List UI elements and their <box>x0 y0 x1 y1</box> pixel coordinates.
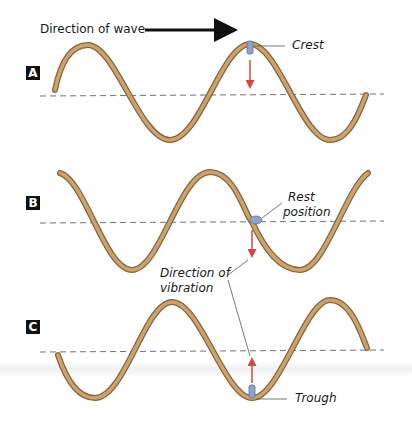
wave-diagram <box>0 0 412 429</box>
wave-c <box>58 300 367 398</box>
direction-of-vibration-line1: Direction of <box>160 266 230 280</box>
rest-label-line1: Rest <box>288 190 315 204</box>
vibration-leader-line-c <box>228 280 250 356</box>
rest-leader-line <box>262 203 282 218</box>
crest-label: Crest <box>292 38 324 52</box>
trough-label: Trough <box>295 391 337 405</box>
marker-figure-b-icon <box>250 216 262 224</box>
direction-of-wave-label: Direction of wave <box>40 22 145 36</box>
panel-label-c: C <box>26 320 40 334</box>
marker-figure-c-icon <box>249 385 255 398</box>
panel-label-a: A <box>26 66 40 80</box>
vibration-leader-line-b <box>228 260 248 275</box>
rest-label-line2: position <box>283 205 331 219</box>
marker-figure-a-icon <box>247 41 253 54</box>
direction-of-vibration-line2: vibration <box>160 281 213 295</box>
wave-a <box>55 44 366 140</box>
panel-label-b: B <box>26 196 40 210</box>
